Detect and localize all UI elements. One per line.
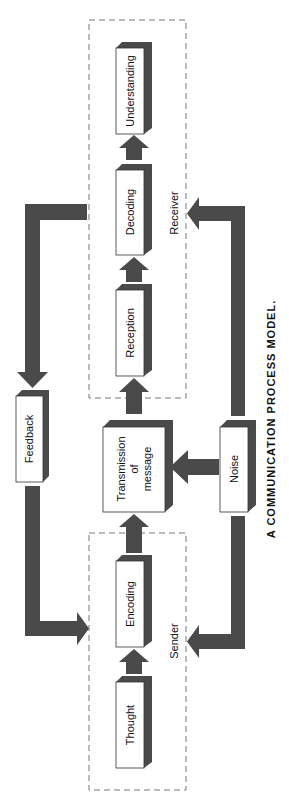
node-label: Reception xyxy=(124,308,136,358)
node-noise: Noise xyxy=(220,420,256,512)
node-transmission: Transmission of message xyxy=(103,420,173,512)
sender-label: Sender xyxy=(168,623,180,659)
node-label: Encoding xyxy=(124,581,136,627)
node-thought: Thought xyxy=(116,676,152,768)
node-feedback: Feedback xyxy=(16,390,49,482)
node-understanding: Understanding xyxy=(116,42,152,134)
node-label: Thought xyxy=(124,705,136,745)
node-label: Understanding xyxy=(124,55,136,127)
node-encoding: Encoding xyxy=(116,555,152,647)
communication-process-diagram: Understanding Decoding Reception Transmi… xyxy=(0,0,289,808)
node-reception: Reception xyxy=(116,284,152,376)
node-label: Noise xyxy=(228,455,240,483)
node-label-line1: Transmission xyxy=(115,437,127,502)
node-label-line2: of xyxy=(128,463,140,473)
node-label-line3: message xyxy=(141,447,153,492)
node-label: Feedback xyxy=(23,414,35,463)
receiver-label: Receiver xyxy=(168,191,180,235)
node-label: Decoding xyxy=(124,189,136,235)
diagram-title: A COMMUNICATION PROCESS MODEL. xyxy=(265,300,277,538)
node-decoding: Decoding xyxy=(116,164,152,255)
